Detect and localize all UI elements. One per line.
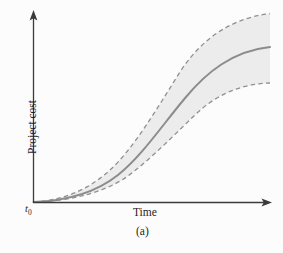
uncertainty-band — [34, 14, 271, 203]
y-axis-label: Project cost — [26, 100, 38, 154]
origin-time-label: t0 — [25, 203, 32, 217]
origin-time-subscript: 0 — [28, 208, 32, 217]
figure-container: Project cost t0 Time (a) — [0, 0, 283, 253]
panel-label: (a) — [136, 225, 149, 237]
x-axis-label: Time — [133, 206, 157, 218]
y-axis-label-wrapper: Project cost — [14, 68, 30, 158]
